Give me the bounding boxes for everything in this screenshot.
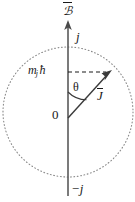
projection-value-label: mjħ xyxy=(28,64,45,78)
magnetic-field-symbol: ℬ xyxy=(63,4,72,18)
figure-canvas xyxy=(0,0,135,202)
j-vector-label: J xyxy=(97,88,103,102)
origin-label: 0 xyxy=(52,108,59,121)
angular-momentum-quantization-figure: ℬ j mjħ θ J 0 −j xyxy=(0,0,135,202)
m-subscript-j: j xyxy=(36,69,38,78)
j-vector-symbol: J xyxy=(97,88,103,103)
negative-j-label: −j xyxy=(71,182,83,195)
positive-j-label: j xyxy=(76,30,80,43)
theta-angle-label: θ xyxy=(73,81,79,93)
magnetic-field-label: ℬ xyxy=(0,2,135,17)
hbar-symbol: ħ xyxy=(39,63,45,77)
